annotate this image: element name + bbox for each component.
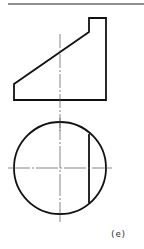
figure-label: (e) xyxy=(110,229,126,239)
technical-drawing xyxy=(0,0,144,249)
